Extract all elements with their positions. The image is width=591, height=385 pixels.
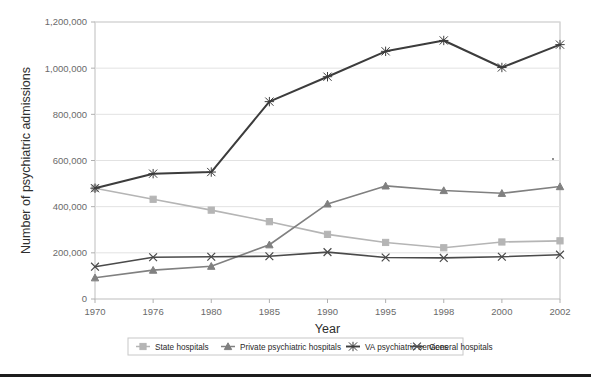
data-point-marker xyxy=(497,63,506,72)
y-axis-title: Number of psychiatric admissions xyxy=(19,67,33,254)
data-point-marker xyxy=(90,184,99,193)
x-tick-label: 2000 xyxy=(491,306,512,317)
x-tick-label: 1980 xyxy=(201,306,222,317)
legend-item-label: Private psychiatric hospitals xyxy=(240,343,341,352)
data-point-marker xyxy=(148,169,157,178)
data-point-marker xyxy=(323,72,332,81)
data-point-marker xyxy=(324,231,330,237)
y-tick-label: 1,200,000 xyxy=(45,16,87,27)
y-tick-label: 600,000 xyxy=(53,155,87,166)
page-bottom-rule xyxy=(0,374,591,377)
x-tick-label: 1990 xyxy=(317,306,338,317)
data-point-marker xyxy=(439,36,448,45)
data-point-marker xyxy=(208,207,214,213)
data-point-marker xyxy=(207,167,216,176)
data-point-marker xyxy=(557,238,563,244)
chart-figure: 0200,000400,000600,000800,0001,000,0001,… xyxy=(0,0,591,385)
legend-item-label: General hospitals xyxy=(429,343,493,352)
page-speck xyxy=(552,158,554,160)
x-axis-title: Year xyxy=(315,322,340,336)
data-point-marker xyxy=(441,245,447,251)
y-tick-label: 1,000,000 xyxy=(45,63,87,74)
data-point-marker xyxy=(140,343,146,349)
data-point-marker xyxy=(383,239,389,245)
legend-item-label: State hospitals xyxy=(155,343,209,352)
x-tick-label: 1985 xyxy=(259,306,280,317)
y-tick-label: 400,000 xyxy=(53,201,87,212)
x-tick-label: 1998 xyxy=(433,306,454,317)
data-point-marker xyxy=(381,47,390,56)
line-chart: 0200,000400,000600,000800,0001,000,0001,… xyxy=(0,0,591,385)
data-point-marker xyxy=(499,239,505,245)
data-point-marker xyxy=(265,97,274,106)
y-tick-label: 200,000 xyxy=(53,247,87,258)
y-tick-label: 0 xyxy=(82,293,87,304)
data-point-marker xyxy=(150,196,156,202)
x-tick-label: 2002 xyxy=(549,306,570,317)
data-point-marker xyxy=(266,219,272,225)
y-tick-label: 800,000 xyxy=(53,109,87,120)
x-tick-label: 1976 xyxy=(143,306,164,317)
data-point-marker xyxy=(348,342,357,351)
data-point-marker xyxy=(555,40,564,49)
x-tick-label: 1970 xyxy=(84,306,105,317)
x-tick-label: 1995 xyxy=(375,306,396,317)
